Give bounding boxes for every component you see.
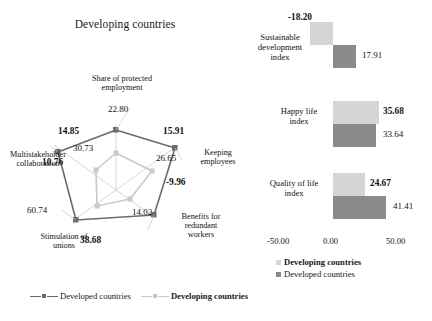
line-marker-icon [141,296,152,297]
bar-developing-quality-of-life-index[interactable] [333,173,365,196]
bar-legend-label-developed: Developed countries [284,269,355,279]
bar-category-quality-of-life-index: Quality of life index [258,178,330,198]
figure-root: Developing countries [0,0,432,321]
bar-developing-sustainable-development-index[interactable] [310,22,333,45]
bar-legend-item-developed[interactable]: Developed countries [276,269,432,279]
bar-chart-x-axis: -50.00 0.00 50.00 [250,236,432,252]
bar-value-developed-quality-of-life-index: 41.41 [393,201,413,211]
radar-value-developing-benefits: -9.96 [166,177,186,187]
radar-legend-item-developed[interactable]: Developed countries [30,291,131,301]
line-marker-icon [158,296,169,297]
bar-legend-item-developing[interactable]: Developing countries [276,257,432,267]
radar-value-developed-keeping: 26.65 [156,153,176,163]
x-tick-label-minus-50: -50.00 [267,236,289,246]
radar-value-developing-keeping: 15.91 [163,126,184,136]
bar-developing-happy-life-index[interactable] [333,101,379,124]
bar-chart-plot: Sustainable development index -18.20 17.… [250,8,432,236]
radar-legend-label-developed: Developed countries [60,291,131,301]
bar-value-developing-sustainable-development-index: -18.20 [288,12,312,22]
radar-axis-label-keeping-employees: Keeping employees [190,148,246,166]
radar-value-developed-unions: 60.74 [27,205,47,215]
radar-value-developing-share: 14.85 [58,126,79,136]
bar-value-developed-happy-life-index: 33.64 [383,129,403,139]
x-tick-label-50: 50.00 [386,236,405,246]
bar-category-happy-life-index: Happy life index [268,106,330,126]
radar-value-developed-share: 22.80 [108,104,128,114]
square-marker-icon [42,294,46,298]
line-marker-icon [30,296,41,297]
radar-legend-item-developing[interactable]: Developing countries [141,291,248,301]
bar-developed-quality-of-life-index[interactable] [333,196,386,219]
radar-spokes [54,125,178,217]
radar-chart-panel: Developing countries [0,0,250,321]
bar-developed-happy-life-index[interactable] [333,124,376,147]
radar-value-developing-multistakeholder: 10.76 [42,157,63,167]
radar-value-developed-benefits: 14.02 [132,207,152,217]
bar-category-sustainable-development-index: Sustainable development index [250,32,310,62]
x-tick-label-0: 0.00 [323,236,338,246]
radar-chart-title: Developing countries [0,18,250,30]
bar-value-developing-quality-of-life-index: 24.67 [370,178,391,188]
radar-value-developed-multistakeholder: 30.73 [73,143,93,153]
radar-legend: Developed countries Developing countries [30,286,250,306]
bar-chart-panel: Sustainable development index -18.20 17.… [250,0,432,321]
bar-developed-sustainable-development-index[interactable] [333,45,356,68]
radar-value-developing-unions: 38.68 [80,235,101,245]
line-marker-icon [47,296,58,297]
radar-legend-label-developing: Developing countries [171,291,248,301]
bar-value-developed-sustainable-development-index: 17.91 [362,50,382,60]
bar-chart-legend: Developing countries Developed countries [250,255,432,281]
radar-axis-label-multistakeholder-collaboration: Multistakeholder collaboration [2,150,74,168]
radar-axis-label-benefits-for-redundant-workers: Benefits for redundant workers [168,212,234,240]
radar-axis-label-share-of-protected-employment: Share of protected employment [77,74,167,92]
bar-value-developing-happy-life-index: 35.68 [383,106,404,116]
square-swatch-icon [276,272,281,277]
square-swatch-icon [276,260,281,265]
square-marker-icon [153,294,157,298]
bar-legend-label-developing: Developing countries [284,257,361,267]
